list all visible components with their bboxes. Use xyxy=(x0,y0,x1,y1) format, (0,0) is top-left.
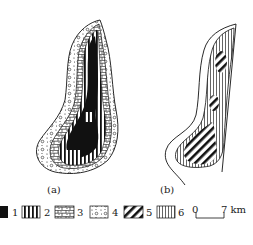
scale-bar xyxy=(196,212,224,218)
legend-label-2: 2 xyxy=(44,208,50,218)
zone-5-diagonal xyxy=(209,95,219,111)
zone-2-inclusion xyxy=(84,112,92,122)
legend-swatch-6 xyxy=(157,206,175,218)
legend-swatch-3 xyxy=(55,206,74,218)
panel-b-map xyxy=(165,24,236,185)
panel-b-label: (b) xyxy=(160,185,174,195)
panel-a-label: (a) xyxy=(47,185,61,195)
legend-label-6: 6 xyxy=(178,208,184,218)
legend-label-4: 4 xyxy=(112,208,118,218)
legend-swatch-5 xyxy=(124,206,143,218)
legend-swatch-4 xyxy=(90,206,108,218)
legend-swatch-2 xyxy=(22,206,40,218)
legend-label-3: 3 xyxy=(77,208,83,218)
zone-2-inclusion xyxy=(66,150,80,160)
scale-end: 7 km xyxy=(221,205,246,215)
panel-a-map xyxy=(36,20,117,174)
legend-label-1: 1 xyxy=(12,208,18,218)
legend-swatch-1 xyxy=(0,206,8,218)
zone-5-diagonal xyxy=(215,51,227,73)
scale-start: 0 xyxy=(192,205,198,215)
legend-label-5: 5 xyxy=(146,208,152,218)
